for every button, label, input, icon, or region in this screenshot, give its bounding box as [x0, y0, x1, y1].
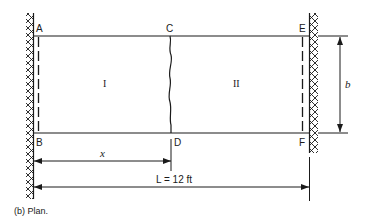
right-wall	[310, 13, 319, 153]
plan-diagram: A B C D E F I II x b L = 12 ft (b) Plan.	[0, 0, 368, 220]
point-label-C: C	[166, 23, 173, 34]
figure-caption: (b) Plan.	[14, 206, 48, 216]
dimension-label-L: L = 12 ft	[156, 174, 192, 185]
point-label-B: B	[36, 137, 43, 148]
crack-line-CD	[169, 36, 171, 133]
point-label-E: E	[299, 23, 306, 34]
left-wall	[26, 13, 34, 199]
dimension-label-x: x	[99, 147, 105, 159]
point-label-A: A	[36, 23, 43, 34]
region-label-II: II	[233, 78, 240, 89]
point-label-D: D	[174, 137, 181, 148]
dimension-label-b: b	[345, 78, 351, 90]
region-label-I: I	[103, 78, 106, 89]
point-label-F: F	[299, 137, 305, 148]
